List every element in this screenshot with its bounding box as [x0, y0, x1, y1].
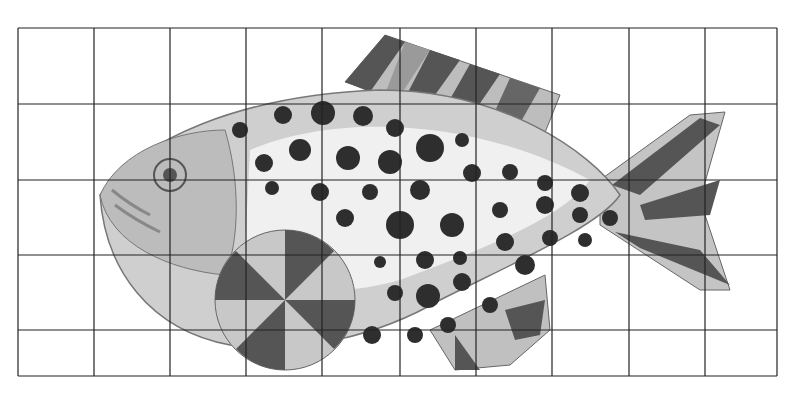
tail-fin: [600, 112, 730, 290]
pectoral-fin: [215, 230, 355, 370]
fish-illustration: [0, 0, 794, 398]
